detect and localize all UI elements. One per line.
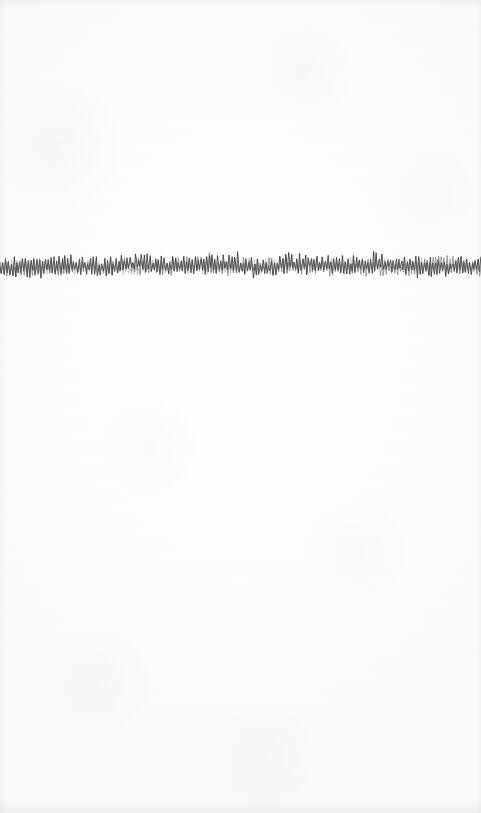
paper-page <box>0 0 481 813</box>
blank-lower-area <box>0 286 481 813</box>
blank-upper-margin <box>0 0 481 255</box>
